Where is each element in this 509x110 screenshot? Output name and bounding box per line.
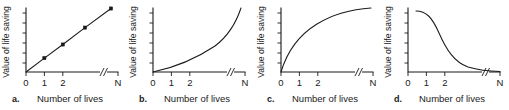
data-curve	[281, 8, 371, 72]
x-axis-title: Number of lives	[164, 93, 230, 104]
x-tick-labels: 0 1 2 N	[23, 77, 121, 88]
data-line	[26, 9, 111, 73]
x-axis-break-icon	[227, 68, 235, 76]
svg-text:N: N	[115, 77, 122, 88]
x-axis-title: Number of lives	[292, 93, 358, 104]
panel-b-plot: Value of life saving	[127, 0, 254, 110]
x-axis-break-icon	[100, 68, 108, 76]
x-axis-break-icon	[482, 68, 490, 76]
x-tick-labels: 0 1 2 N	[151, 77, 249, 88]
chart-panel-c: Value of life saving	[255, 0, 382, 110]
svg-text:2: 2	[60, 77, 65, 88]
svg-text:0: 0	[405, 77, 410, 88]
panel-d-plot: Value of life saving	[382, 0, 509, 110]
svg-text:0: 0	[23, 77, 28, 88]
panel-letter: d.	[394, 94, 402, 104]
svg-text:0: 0	[151, 77, 156, 88]
x-axis-break-icon	[355, 68, 363, 76]
panel-letter: c.	[267, 94, 275, 104]
panel-letter: b.	[139, 94, 147, 104]
y-axis-title: Value of life saving	[1, 6, 11, 78]
svg-text:0: 0	[278, 77, 283, 88]
axes	[26, 8, 118, 72]
data-curve	[416, 11, 500, 72]
svg-text:N: N	[242, 77, 249, 88]
svg-text:N: N	[496, 77, 503, 88]
svg-text:2: 2	[187, 77, 192, 88]
panel-c-plot: Value of life saving	[255, 0, 382, 110]
chart-panel-d: Value of life saving	[382, 0, 509, 110]
chart-panel-a: Value of life saving	[0, 0, 127, 110]
axes	[153, 8, 245, 72]
chart-panel-b: Value of life saving	[127, 0, 254, 110]
svg-text:1: 1	[296, 77, 301, 88]
x-axis-title: Number of lives	[37, 93, 103, 104]
four-panel-figure: Value of life saving	[0, 0, 509, 110]
svg-text:1: 1	[42, 77, 47, 88]
svg-text:1: 1	[169, 77, 174, 88]
y-axis-title: Value of life saving	[256, 6, 266, 78]
axes	[281, 8, 373, 72]
x-tick-labels: 0 1 2 N	[278, 77, 376, 88]
y-axis-title: Value of life saving	[383, 6, 393, 78]
x-tick-labels: 0 1 2 N	[405, 77, 503, 88]
y-axis-title: Value of life saving	[128, 6, 138, 78]
x-axis-title: Number of lives	[419, 93, 485, 104]
panel-a-plot: Value of life saving	[0, 0, 127, 110]
svg-text:1: 1	[424, 77, 429, 88]
axes	[408, 8, 500, 72]
svg-text:N: N	[369, 77, 376, 88]
svg-text:2: 2	[442, 77, 447, 88]
svg-text:2: 2	[315, 77, 320, 88]
data-curve	[153, 8, 241, 72]
panel-letter: a.	[12, 94, 20, 104]
